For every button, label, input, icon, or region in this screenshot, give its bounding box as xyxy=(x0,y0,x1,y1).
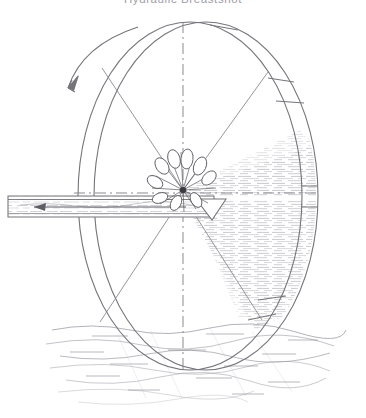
splash-droplet xyxy=(180,148,194,169)
tail-water-pool xyxy=(46,324,346,405)
splash-core xyxy=(180,187,187,193)
water-wheel-diagram xyxy=(0,0,366,418)
water-wheel-figure: Hydraulic Breastshot xyxy=(0,0,366,418)
rotation-direction-arrow xyxy=(68,27,138,92)
spoke xyxy=(102,68,183,190)
